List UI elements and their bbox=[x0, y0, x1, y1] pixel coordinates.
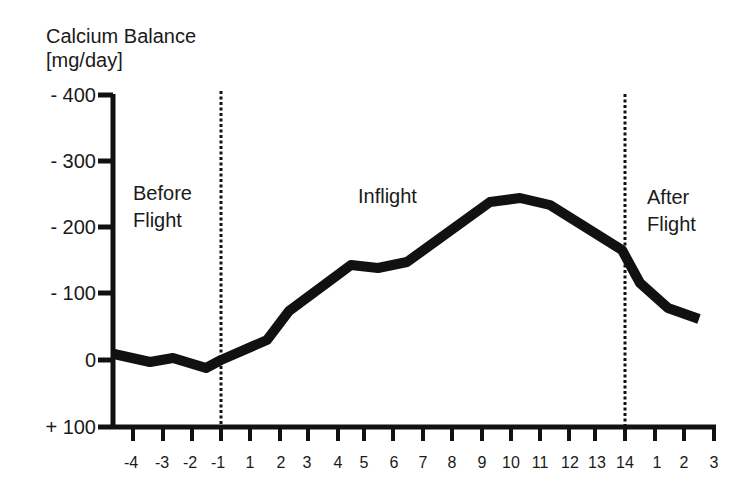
y-tick-label: - 100 bbox=[50, 282, 96, 304]
x-tick-label: 9 bbox=[478, 454, 487, 471]
x-tick-label: 11 bbox=[532, 454, 549, 471]
x-tick-label: 7 bbox=[419, 454, 428, 471]
x-tick-label: 4 bbox=[334, 454, 343, 471]
x-tick-label: 2 bbox=[277, 454, 286, 471]
phase-label-before-flight-2: Flight bbox=[133, 209, 182, 231]
x-tick-label: -1 bbox=[211, 454, 225, 471]
calcium-balance-line bbox=[114, 198, 699, 368]
x-tick-label: 3 bbox=[710, 454, 719, 471]
x-tick-label: 14 bbox=[616, 454, 634, 471]
x-tick-label: -3 bbox=[155, 454, 169, 471]
x-tick-label: 8 bbox=[448, 454, 457, 471]
phase-label-after-flight-1: After bbox=[647, 186, 690, 208]
x-tick-label: 3 bbox=[303, 454, 312, 471]
x-tick-label: 1 bbox=[653, 454, 662, 471]
calcium-balance-chart: - 400 - 300 - 200 - 100 0 + 100 -4 -3 -2 bbox=[0, 0, 749, 497]
x-tick-label: 1 bbox=[246, 454, 255, 471]
y-tick-label: - 300 bbox=[50, 150, 96, 172]
x-tick-label: -2 bbox=[183, 454, 197, 471]
y-tick-labels: - 400 - 300 - 200 - 100 0 + 100 bbox=[45, 84, 96, 438]
x-tick-label: -4 bbox=[124, 454, 138, 471]
x-tick-label: 10 bbox=[502, 454, 520, 471]
y-tick-label: - 200 bbox=[50, 216, 96, 238]
x-tick-labels: -4 -3 -2 -1 1 2 3 4 5 6 7 8 9 10 11 12 1… bbox=[124, 454, 719, 471]
x-tick-label: 2 bbox=[680, 454, 689, 471]
phase-label-inflight: Inflight bbox=[358, 185, 417, 207]
phase-label-before-flight-1: Before bbox=[133, 182, 192, 204]
x-tick-label: 5 bbox=[360, 454, 369, 471]
x-tick-label: 12 bbox=[561, 454, 579, 471]
x-tick-label: 6 bbox=[390, 454, 399, 471]
y-tick-label: - 400 bbox=[50, 84, 96, 106]
y-tick-label: + 100 bbox=[45, 416, 96, 438]
y-tick-label: 0 bbox=[85, 349, 96, 371]
x-tick-label: 13 bbox=[588, 454, 606, 471]
x-ticks bbox=[133, 427, 714, 441]
phase-label-after-flight-2: Flight bbox=[647, 213, 696, 235]
